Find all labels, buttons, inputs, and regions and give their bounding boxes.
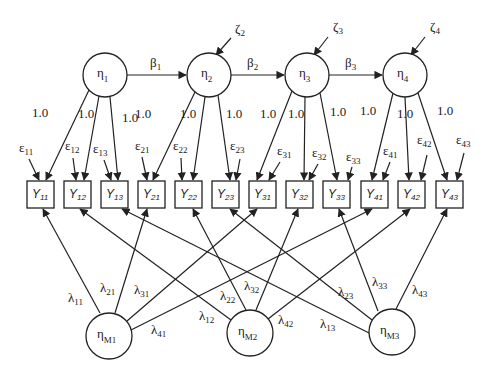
loading-value: 1.0 xyxy=(226,106,242,121)
error-arrow xyxy=(142,157,147,180)
indicator-Y43: Y43 xyxy=(436,181,463,208)
indicator-Y31: Y31 xyxy=(249,181,276,208)
epsilon-label: ε41 xyxy=(383,143,397,160)
lambda-label: λ31 xyxy=(134,282,149,299)
lambda-label: λ33 xyxy=(372,274,388,291)
indicator-Y23: Y23 xyxy=(212,181,239,208)
factor-node-etaM3: ηM3 xyxy=(369,309,415,355)
loading-value: 1.0 xyxy=(360,103,376,118)
indicator-Y42: Y42 xyxy=(398,181,425,208)
indicator-Y21: Y21 xyxy=(138,181,165,208)
factor-node-eta3: η3 xyxy=(285,53,329,97)
method-loading-arrow xyxy=(230,209,372,320)
epsilon-label: ε21 xyxy=(135,138,149,155)
factor-loading-arrow xyxy=(110,97,118,180)
lambda-label: λ11 xyxy=(68,290,83,307)
loading-value: 1.0 xyxy=(397,106,413,121)
error-arrow xyxy=(421,155,427,180)
indicator-Y22: Y22 xyxy=(175,181,202,208)
lambda-label: λ42 xyxy=(278,312,293,329)
epsilon-label: ε13 xyxy=(93,141,108,158)
error-arrow xyxy=(348,167,352,180)
epsilon-label: ε11 xyxy=(19,140,33,157)
error-arrow xyxy=(236,159,240,180)
indicator-Y41: Y41 xyxy=(361,181,388,208)
error-arrow xyxy=(29,159,39,180)
loading-value: 1.0 xyxy=(288,106,304,121)
loading-value: 1.0 xyxy=(78,106,94,121)
indicator-Y33: Y33 xyxy=(323,181,350,208)
zeta-label: ζ4 xyxy=(430,19,440,36)
error-arrow xyxy=(73,158,76,180)
zeta-label: ζ3 xyxy=(333,19,343,36)
lambda-label: λ21 xyxy=(100,280,115,297)
factor-node-etaM2: ηM2 xyxy=(227,310,273,356)
factor-node-eta4: η4 xyxy=(383,53,427,97)
indicator-Y12: Y12 xyxy=(64,181,91,208)
error-arrow xyxy=(309,164,318,180)
loading-value: 1.0 xyxy=(32,105,48,120)
lambda-label: λ23 xyxy=(338,284,354,301)
lambda-label: λ32 xyxy=(244,278,259,295)
epsilon-label: ε43 xyxy=(456,132,471,149)
epsilon-label: ε32 xyxy=(312,145,326,162)
indicator-Y13: Y13 xyxy=(101,181,128,208)
error-arrow xyxy=(269,162,280,180)
indicator-Y32: Y32 xyxy=(286,181,313,208)
epsilon-label: ε31 xyxy=(277,143,291,160)
lambda-label: λ41 xyxy=(151,322,166,339)
factor-node-eta1: η1 xyxy=(83,53,127,97)
lambda-label: λ43 xyxy=(412,282,428,299)
beta-label: β1 xyxy=(150,55,161,72)
nodes-layer: η1η2η3η4ηM1ηM2ηM3Y11Y12Y13Y21Y22Y23Y31Y3… xyxy=(27,53,463,359)
epsilon-label: ε22 xyxy=(173,138,187,155)
factor-loading-arrow xyxy=(46,90,89,180)
epsilon-label: ε33 xyxy=(346,149,361,166)
epsilon-label: ε12 xyxy=(65,138,79,155)
lambda-label: λ22 xyxy=(220,288,235,305)
indicator-Y11: Y11 xyxy=(27,181,54,208)
factor-node-eta2: η2 xyxy=(187,53,231,97)
method-loading-arrow xyxy=(127,209,257,321)
zeta-label: ζ2 xyxy=(235,21,245,38)
sem-path-diagram: η1η2η3η4ηM1ηM2ηM3Y11Y12Y13Y21Y22Y23Y31Y3… xyxy=(0,0,490,376)
lambda-label: λ13 xyxy=(320,316,336,333)
disturbance-arrow xyxy=(216,38,231,55)
lambda-label: λ12 xyxy=(199,308,214,325)
loading-value: 1.0 xyxy=(330,104,346,119)
disturbance-arrow xyxy=(314,37,328,55)
loading-value: 1.0 xyxy=(135,106,151,121)
beta-label: β3 xyxy=(345,55,357,72)
loading-value: 1.0 xyxy=(180,106,196,121)
beta-label: β2 xyxy=(247,55,258,72)
factor-node-etaM1: ηM1 xyxy=(86,313,132,359)
error-arrow xyxy=(383,162,390,180)
factor-loading-arrow xyxy=(257,91,292,180)
epsilon-label: ε42 xyxy=(417,132,431,149)
error-arrow xyxy=(181,158,182,180)
error-arrow xyxy=(457,153,464,180)
loading-value: 1.0 xyxy=(437,103,453,118)
epsilon-label: ε23 xyxy=(230,138,245,155)
disturbance-arrow xyxy=(411,37,425,55)
loading-value: 1.0 xyxy=(260,106,276,121)
error-arrow xyxy=(104,160,111,180)
